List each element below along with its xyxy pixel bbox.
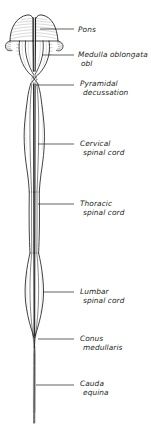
- label-pyramidal-decussation-line1: Pyramidal: [80, 79, 118, 88]
- label-pons-line1: Pons: [78, 25, 96, 34]
- label-conus-medullaris-line1: Conus: [80, 334, 103, 343]
- label-conus-medullaris-line2: medullaris: [80, 343, 123, 352]
- label-thoracic-spinal-cord: Thoracicspinal cord: [80, 199, 124, 217]
- label-lumbar-spinal-cord-line2: spinal cord: [80, 296, 124, 305]
- label-medulla-oblongata: Medulla oblongataobl: [78, 50, 148, 68]
- label-thoracic-spinal-cord-line1: Thoracic: [80, 199, 112, 208]
- label-pons: Pons: [78, 25, 96, 34]
- label-cervical-spinal-cord-line1: Cervical: [80, 139, 110, 148]
- label-lumbar-spinal-cord-line1: Lumbar: [80, 287, 109, 296]
- label-medulla-oblongata-line1: Medulla oblongata: [78, 50, 148, 59]
- label-thoracic-spinal-cord-line2: spinal cord: [80, 208, 124, 217]
- label-conus-medullaris: Conusmedullaris: [80, 334, 123, 352]
- label-cauda-equina-line2: equina: [80, 388, 109, 397]
- label-cervical-spinal-cord: Cervicalspinal cord: [80, 139, 124, 157]
- label-pyramidal-decussation: Pyramidaldecussation: [80, 79, 128, 97]
- label-cervical-spinal-cord-line2: spinal cord: [80, 148, 124, 157]
- spinal-cord-figure: PonsMedulla oblongataoblPyramidaldecussa…: [0, 0, 151, 442]
- label-cauda-equina: Caudaequina: [80, 379, 109, 397]
- label-medulla-oblongata-line2: obl: [78, 59, 148, 68]
- label-cauda-equina-line1: Cauda: [80, 379, 104, 388]
- label-pyramidal-decussation-line2: decussation: [80, 88, 128, 97]
- label-lumbar-spinal-cord: Lumbarspinal cord: [80, 287, 124, 305]
